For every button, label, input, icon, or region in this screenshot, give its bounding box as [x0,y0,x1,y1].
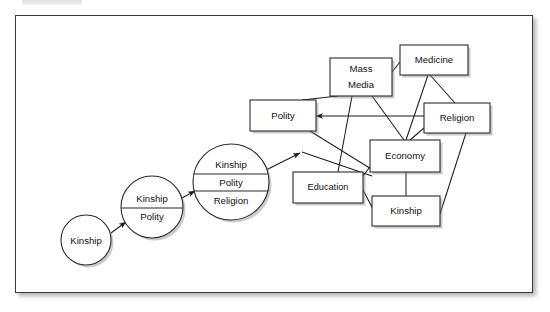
stage-2-label-kinship: Kinship [136,193,167,204]
edge-religion-kinship [440,133,466,214]
node-polity-label: Polity [271,110,295,121]
node-religion[interactable]: Religion [424,103,493,136]
node-polity[interactable]: Polity [250,100,319,134]
figure-stage: Kinship Kinship Polity Kinship Polity Re… [0,0,550,312]
stage-3-label-polity: Polity [219,177,243,188]
diagram-canvas: Kinship Kinship Polity Kinship Polity Re… [0,0,550,312]
node-economy-label: Economy [385,150,425,161]
stage-3-circle-group: Kinship Polity Religion [193,144,272,223]
stage-1-label-kinship: Kinship [70,235,101,246]
edge-mass-media-economy [372,96,404,140]
arrow-stage1-to-stage2 [111,222,126,233]
arrow-stage3-to-network [266,153,300,170]
node-mass-media-label-line1: Mass [350,63,373,74]
edge-mass-media-education [338,96,352,172]
node-kinship-label: Kinship [390,205,421,216]
node-kinship-box[interactable]: Kinship [372,196,443,229]
node-religion-label: Religion [440,112,475,123]
node-mass-media-label-line2: Media [348,79,375,90]
stage-2-circle[interactable] [121,176,183,238]
node-mass-media[interactable]: Mass Media [330,58,395,99]
stage-3-label-kinship: Kinship [215,159,246,170]
node-education-label: Education [308,182,349,192]
edge-religion-economy [410,128,424,140]
node-medicine-label: Medicine [415,54,453,65]
stage-2-label-polity: Polity [140,211,164,222]
stage-2-circle-group: Kinship Polity [121,176,186,241]
stage-1-circle-group: Kinship [61,215,114,268]
node-education[interactable]: Education [293,172,366,206]
edge-medicine-religion [430,75,455,103]
node-economy[interactable]: Economy [370,140,443,175]
node-medicine[interactable]: Medicine [400,45,471,78]
stage-3-label-religion: Religion [214,195,249,206]
